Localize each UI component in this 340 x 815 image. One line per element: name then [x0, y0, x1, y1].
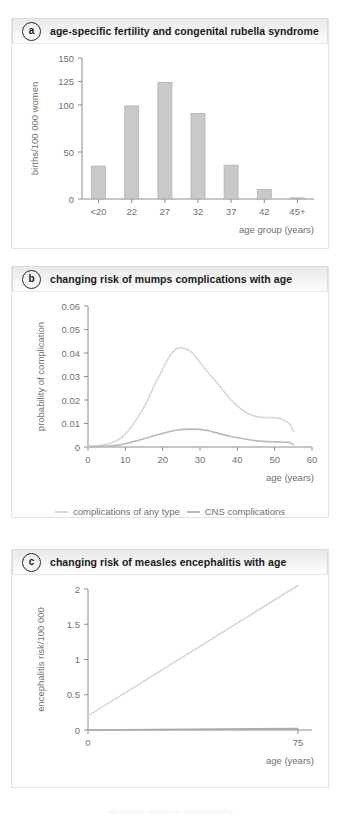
panel-b-header: b changing risk of mumps complications w… [12, 266, 328, 292]
legend-label-any: complications of any type [73, 506, 180, 517]
tick-label: 32 [193, 206, 204, 217]
tick-label: 0.03 [62, 371, 81, 382]
tick-label: 100 [58, 100, 74, 111]
panel-a-title: age-specific fertility and congenital ru… [50, 25, 319, 37]
panel-c: c changing risk of measles encephalitis … [11, 549, 329, 788]
bar [158, 82, 172, 199]
tick-label: 0 [75, 725, 80, 736]
chart-c: 00.511.52075encephalitis risk/100 000age… [12, 575, 328, 787]
tick-label: 0.04 [62, 348, 81, 359]
bar [92, 166, 106, 199]
tick-label: 1.5 [67, 619, 80, 630]
tick-label: 30 [195, 454, 206, 465]
series-line [88, 585, 298, 715]
chart-b-legend: complications of any type CNS complicati… [12, 504, 328, 517]
panel-c-title: changing risk of measles encephalitis wi… [50, 556, 286, 568]
tick-label: 0 [85, 454, 90, 465]
panel-b: b changing risk of mumps complications w… [11, 266, 329, 518]
tick-label: <20 [91, 206, 107, 217]
figure-footnote: age-related changes in transmissibility [0, 808, 340, 815]
panel-a: a age-specific fertility and congenital … [11, 18, 329, 249]
tick-label: 45+ [289, 206, 306, 217]
tick-label: 0 [69, 194, 74, 205]
legend-item-cns: CNS complications [187, 506, 285, 517]
legend-dash-icon [187, 511, 200, 513]
panel-b-body: 00.010.020.030.040.050.060102030405060pr… [12, 292, 328, 517]
panel-c-body: 00.511.52075encephalitis risk/100 000age… [12, 575, 328, 787]
tick-label: 1 [75, 654, 80, 665]
series-line [88, 348, 293, 447]
series-line [88, 429, 293, 447]
panel-a-letter: a [22, 22, 41, 41]
tick-label: 22 [126, 206, 137, 217]
tick-label: 40 [232, 454, 243, 465]
tick-label: 0 [75, 442, 80, 453]
panel-b-letter: b [22, 270, 41, 289]
bar [125, 106, 139, 199]
legend-item-any: complications of any type [55, 506, 180, 517]
tick-label: 125 [58, 76, 74, 87]
tick-label: 0 [85, 737, 90, 748]
tick-label: 27 [160, 206, 171, 217]
figure-root: a age-specific fertility and congenital … [0, 0, 340, 815]
bar [290, 198, 304, 199]
tick-label: 0.05 [62, 324, 81, 335]
chart-b: 00.010.020.030.040.050.060102030405060pr… [12, 292, 328, 504]
legend-dash-icon [55, 511, 68, 513]
tick-label: 37 [226, 206, 237, 217]
y-axis-title: births/100 000 women [29, 82, 40, 175]
tick-label: 60 [307, 454, 318, 465]
tick-label: 150 [58, 53, 74, 64]
tick-label: 2 [75, 584, 80, 595]
bar [257, 190, 271, 199]
panel-c-letter: c [22, 553, 41, 572]
y-axis-title: probability of complication [35, 322, 46, 431]
bar [191, 114, 205, 200]
tick-label: 75 [293, 737, 304, 748]
tick-label: age group (years) [239, 224, 314, 235]
tick-label: 42 [259, 206, 270, 217]
panel-c-header: c changing risk of measles encephalitis … [12, 549, 328, 575]
tick-label: 20 [157, 454, 168, 465]
tick-label: 0.02 [62, 395, 81, 406]
tick-label: 50 [269, 454, 280, 465]
legend-label-cns: CNS complications [205, 506, 285, 517]
panel-b-title: changing risk of mumps complications wit… [50, 273, 292, 285]
tick-label: 50 [63, 147, 74, 158]
tick-label: age (years) [266, 472, 314, 483]
tick-label: 0.01 [62, 418, 81, 429]
chart-a: 050100125150<20222732374245+births/100 0… [12, 44, 328, 248]
panel-a-header: a age-specific fertility and congenital … [12, 18, 328, 44]
y-axis-title: encephalitis risk/100 000 [35, 607, 46, 712]
bar [224, 165, 238, 199]
panel-a-body: 050100125150<20222732374245+births/100 0… [12, 44, 328, 248]
tick-label: 0.5 [67, 689, 80, 700]
tick-label: 10 [120, 454, 131, 465]
tick-label: age (years) [266, 755, 314, 766]
tick-label: 0.06 [62, 301, 81, 312]
